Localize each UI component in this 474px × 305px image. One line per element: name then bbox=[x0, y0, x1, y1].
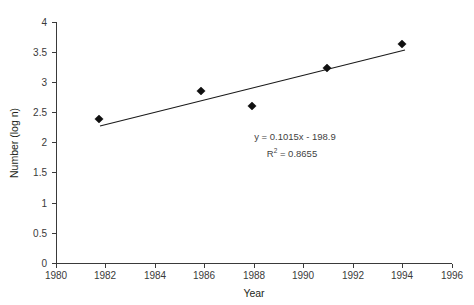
x-tick-label: 1996 bbox=[441, 270, 464, 281]
y-tick-label: 1.5 bbox=[33, 167, 47, 178]
chart-container: 4 3.5 3 2.5 2 1.5 1 0.5 0 1980 1982 198 bbox=[0, 0, 474, 305]
x-tick-label: 1990 bbox=[292, 270, 315, 281]
scatter-plot: 4 3.5 3 2.5 2 1.5 1 0.5 0 1980 1982 198 bbox=[0, 0, 474, 305]
y-tick-label: 3 bbox=[41, 77, 47, 88]
y-tick-label: 0.5 bbox=[33, 228, 47, 239]
x-tick-label: 1994 bbox=[391, 270, 414, 281]
y-tick-label: 0 bbox=[41, 258, 47, 269]
x-tick-label: 1992 bbox=[342, 270, 365, 281]
data-point-marker bbox=[95, 115, 103, 123]
y-tick-label: 1 bbox=[41, 198, 47, 209]
y-tick-label: 4 bbox=[41, 17, 47, 28]
trendline bbox=[100, 50, 405, 126]
data-point-marker bbox=[398, 40, 406, 48]
y-axis-tick-labels: 4 3.5 3 2.5 2 1.5 1 0.5 0 bbox=[33, 17, 47, 269]
r-squared-suffix: = 0.8655 bbox=[277, 148, 317, 159]
x-axis-title: Year bbox=[243, 287, 265, 299]
x-tick-label: 1980 bbox=[45, 270, 68, 281]
x-tick-label: 1986 bbox=[193, 270, 216, 281]
r-squared-label: R2 = 0.8655 bbox=[267, 147, 317, 159]
y-tick-label: 2.5 bbox=[33, 107, 47, 118]
x-tick-label: 1982 bbox=[94, 270, 117, 281]
y-tick-label: 3.5 bbox=[33, 47, 47, 58]
x-axis-tick-labels: 1980 1982 1984 1986 1988 1990 1992 1994 … bbox=[45, 270, 464, 281]
regression-equation-label: y = 0.1015x - 198.9 bbox=[254, 131, 336, 142]
data-point-marker bbox=[323, 64, 331, 72]
data-point-marker bbox=[248, 102, 256, 110]
x-tick-label: 1988 bbox=[243, 270, 266, 281]
x-axis-ticks bbox=[57, 264, 453, 268]
y-axis-title: Number (log n) bbox=[8, 108, 20, 178]
data-points bbox=[95, 40, 406, 123]
y-tick-label: 2 bbox=[41, 137, 47, 148]
data-point-marker bbox=[197, 87, 205, 95]
y-axis-ticks bbox=[52, 23, 56, 264]
x-tick-label: 1984 bbox=[144, 270, 167, 281]
